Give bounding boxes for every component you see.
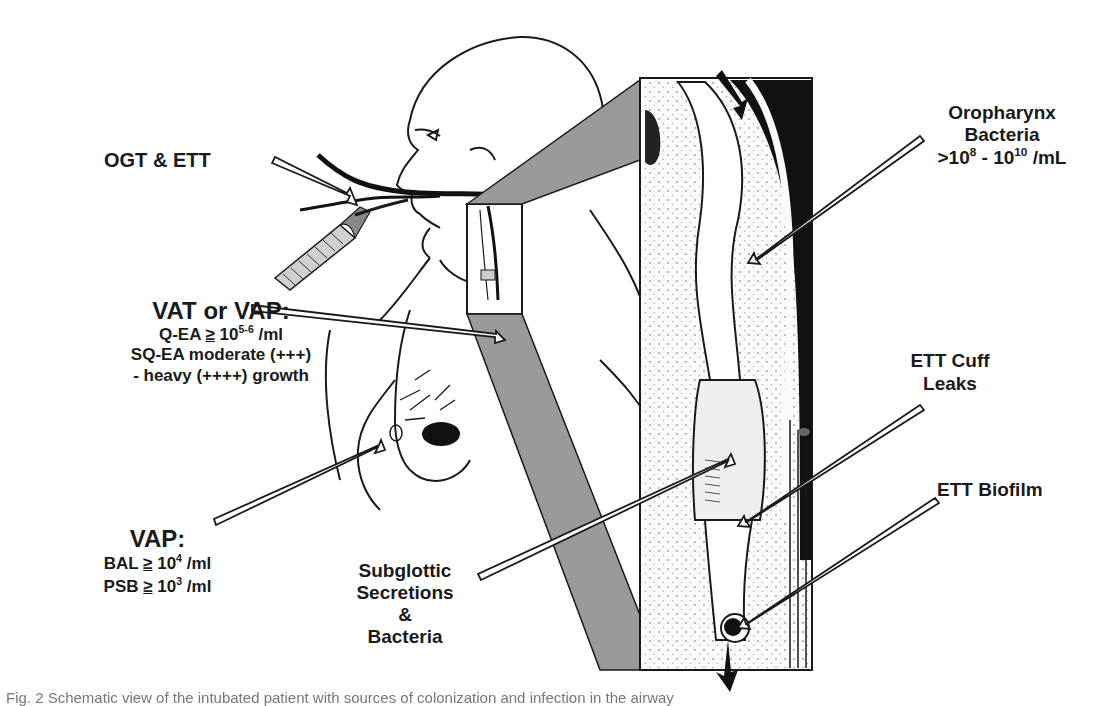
lung-infection-focus [422,422,460,446]
pointer-vap [214,440,385,525]
zoom-wedge-top [467,80,640,204]
vat-vap-title: VAT or VAP: [90,297,352,325]
label-subglottic: Subglottic Secretions & Bacteria [340,560,470,647]
zoom-wedge-bottom [467,314,640,670]
neck-inset-box [467,204,522,314]
pointer-ogt-ett [272,157,357,205]
figure-caption: Fig. 2 Schematic view of the intubated p… [0,690,1101,706]
label-vat-vap: VAT or VAP: Q-EA ≥ 105-6 /ml SQ-EA moder… [90,297,352,387]
vat-vap-growth: - heavy (++++) growth [90,366,352,387]
lung-drawing [400,370,455,420]
vat-vap-sqea: SQ-EA moderate (+++) [90,345,352,366]
vap-title: VAP: [70,525,245,553]
vat-vap-qea: Q-EA ≥ 105-6 /ml [90,325,352,346]
label-ogt-ett: OGT & ETT [104,148,211,172]
label-vap: VAP: BAL ≥ 104 /ml PSB ≥ 103 /ml [70,525,245,598]
vap-psb: PSB ≥ 103 /ml [70,576,245,599]
vap-bal: BAL ≥ 104 /ml [70,553,245,576]
ventilator-connector-drawing [275,200,408,290]
label-oropharynx: Oropharynx Bacteria >108 - 1010 /mL [912,102,1092,169]
label-ett-cuff-leaks: ETT Cuff Leaks [890,350,1010,396]
label-ett-biofilm: ETT Biofilm [937,478,1043,501]
